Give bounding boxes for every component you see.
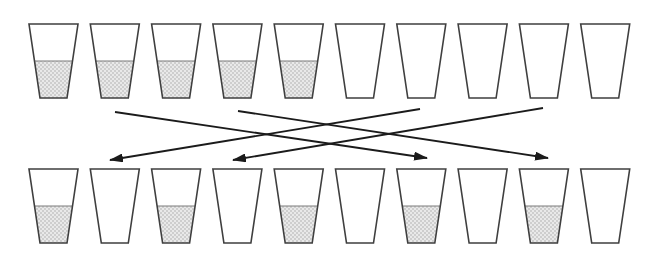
liquid <box>35 61 73 98</box>
glasses-figure-svg <box>0 0 653 262</box>
glasses-diagram <box>0 0 653 262</box>
liquid <box>280 61 318 98</box>
liquid <box>218 61 256 98</box>
liquid <box>157 61 195 98</box>
liquid <box>280 206 318 243</box>
liquid <box>525 206 563 243</box>
liquid <box>35 206 73 243</box>
liquid <box>402 206 440 243</box>
liquid <box>157 206 195 243</box>
liquid <box>96 61 134 98</box>
